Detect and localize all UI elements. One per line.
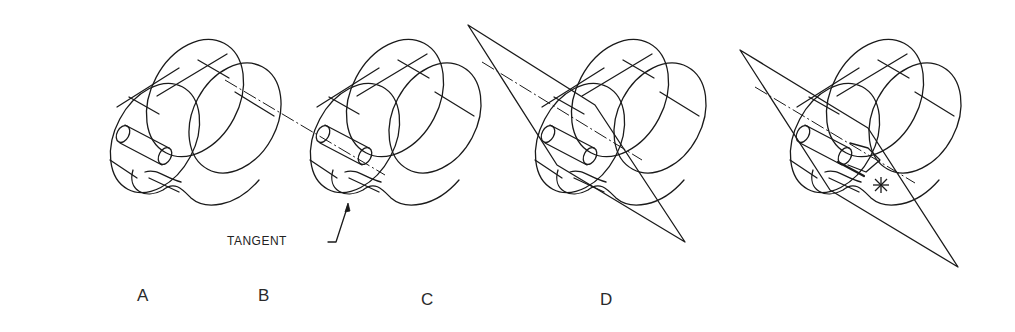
- tangent-leader: [328, 205, 348, 242]
- panel-label-a: A: [137, 286, 148, 306]
- panel-c-cutting-plane: [468, 25, 685, 242]
- panel-a-drawing: [92, 23, 299, 208]
- tangent-point-star-icon: [873, 177, 889, 193]
- tangent-arrowhead: [345, 203, 350, 212]
- panel-label-d: D: [600, 290, 612, 310]
- panel-d-cutting-plane: [740, 50, 958, 267]
- panel-b-drawing: [292, 23, 499, 208]
- tangent-annotation: TANGENT: [227, 234, 287, 248]
- panel-c-drawing: [517, 23, 724, 208]
- panel-label-b: B: [258, 286, 269, 306]
- panel-d-axis-line: [755, 87, 915, 183]
- panel-label-c: C: [421, 290, 433, 310]
- construction-drawing: [0, 0, 1015, 332]
